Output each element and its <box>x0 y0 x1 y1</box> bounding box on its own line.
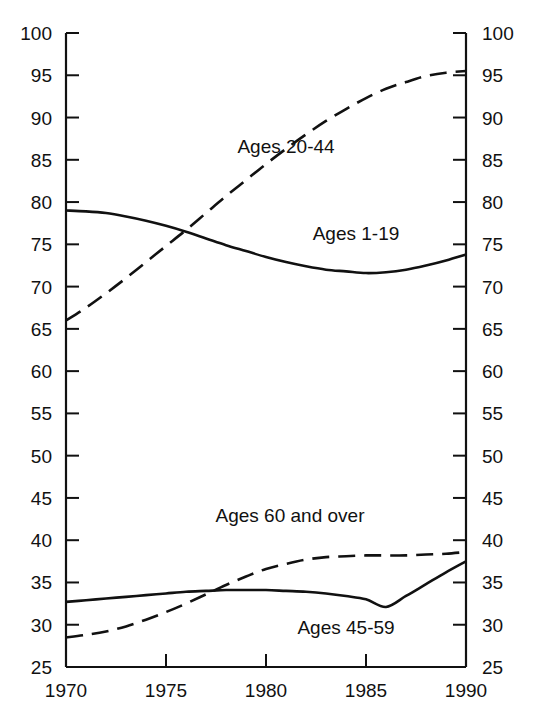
axis-frame <box>66 33 466 667</box>
y-axis-right-tick-label: 95 <box>482 66 528 85</box>
y-axis-left-tick-label: 35 <box>6 573 52 592</box>
y-axis-right-tick-label: 30 <box>482 616 528 635</box>
y-axis-right-tick-label: 75 <box>482 235 528 254</box>
y-axis-left-tick-label: 95 <box>6 66 52 85</box>
y-axis-left-tick-label: 55 <box>6 404 52 423</box>
x-axis-tick-label: 1975 <box>131 681 201 700</box>
y-axis-right-tick-label: 65 <box>482 320 528 339</box>
y-axis-right-tick-label: 55 <box>482 404 528 423</box>
y-axis-left-tick-label: 100 <box>6 24 52 43</box>
y-axis-left-tick-label: 60 <box>6 362 52 381</box>
y-axis-right-tick-label: 60 <box>482 362 528 381</box>
y-axis-left-tick-label: 75 <box>6 235 52 254</box>
x-axis-tick-label: 1980 <box>231 681 301 700</box>
plot-area <box>0 0 538 718</box>
y-axis-right-tick-label: 85 <box>482 151 528 170</box>
x-axis-tick-label: 1985 <box>331 681 401 700</box>
y-axis-left-tick-label: 70 <box>6 278 52 297</box>
y-axis-left-tick-label: 50 <box>6 447 52 466</box>
y-axis-left-tick-label: 40 <box>6 531 52 550</box>
y-axis-left-tick-label: 25 <box>6 658 52 677</box>
y-axis-left-tick-label: 65 <box>6 320 52 339</box>
y-axis-right-tick-label: 45 <box>482 489 528 508</box>
y-axis-right-tick-label: 35 <box>482 573 528 592</box>
y-axis-right-tick-label: 40 <box>482 531 528 550</box>
y-axis-left-tick-label: 45 <box>6 489 52 508</box>
series-label-ages-1-19: Ages 1-19 <box>313 224 400 243</box>
y-axis-right-tick-label: 50 <box>482 447 528 466</box>
series-label-ages-60-and-over: Ages 60 and over <box>216 506 365 525</box>
y-axis-right-tick-label: 90 <box>482 109 528 128</box>
series-label-ages-45-59: Ages 45-59 <box>297 618 394 637</box>
y-axis-right-tick-label: 80 <box>482 193 528 212</box>
y-axis-left-tick-label: 80 <box>6 193 52 212</box>
series-label-ages-20-44: Ages 20-44 <box>237 137 334 156</box>
y-axis-right-tick-label: 70 <box>482 278 528 297</box>
y-axis-right-tick-label: 100 <box>482 24 528 43</box>
y-axis-right-tick-label: 25 <box>482 658 528 677</box>
x-axis-tick-label: 1990 <box>431 681 501 700</box>
tick-marks <box>66 33 466 667</box>
x-axis-tick-label: 1970 <box>31 681 101 700</box>
y-axis-left-tick-label: 90 <box>6 109 52 128</box>
line-chart: 100959085807570656055504540353025 100959… <box>0 0 538 718</box>
y-axis-left-tick-label: 30 <box>6 616 52 635</box>
y-axis-left-tick-label: 85 <box>6 151 52 170</box>
